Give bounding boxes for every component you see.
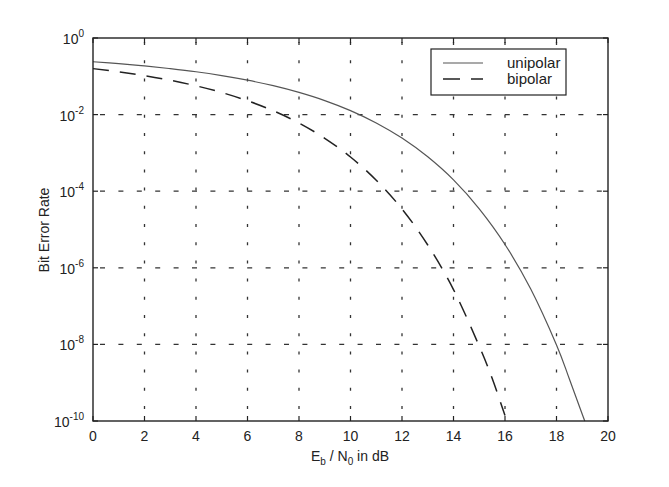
ber-chart: 02468101214161820 10010-210-410-610-810-… [0, 0, 669, 487]
y-tick-labels: 10010-210-410-610-810-10 [54, 28, 84, 430]
x-tick-label: 18 [549, 428, 565, 444]
y-tick-label: 10-2 [60, 105, 85, 124]
x-axis-label: Eb / N0 in dB [311, 448, 389, 467]
x-tick-label: 14 [446, 428, 462, 444]
unipolar-curve [93, 62, 585, 421]
x-tick-label: 10 [343, 428, 359, 444]
y-tick-label: 10-4 [60, 181, 85, 200]
x-tick-labels: 02468101214161820 [89, 428, 616, 444]
x-tick-label: 4 [192, 428, 200, 444]
y-axis-label: Bit Error Rate [36, 187, 52, 272]
y-tick-label: 10-8 [60, 334, 85, 353]
bipolar-curve [93, 69, 505, 416]
x-tick-label: 6 [244, 428, 252, 444]
legend-bipolar-label: bipolar [507, 70, 552, 87]
legend-unipolar-label: unipolar [507, 54, 560, 71]
y-tick-label: 100 [63, 28, 85, 47]
x-tick-label: 20 [600, 428, 616, 444]
legend: unipolar bipolar [431, 49, 566, 95]
x-tick-label: 16 [497, 428, 513, 444]
grid-lines [93, 42, 604, 421]
x-tick-label: 12 [394, 428, 410, 444]
x-tick-label: 2 [141, 428, 149, 444]
x-tick-label: 8 [295, 428, 303, 444]
y-tick-label: 10-6 [60, 258, 85, 277]
y-tick-label: 10-10 [54, 411, 84, 430]
data-curves [93, 62, 585, 421]
x-tick-label: 0 [89, 428, 97, 444]
